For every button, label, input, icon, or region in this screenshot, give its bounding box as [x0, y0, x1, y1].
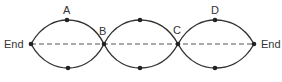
loop-1-upper-curve	[31, 20, 104, 44]
middle-upper-dot	[138, 18, 143, 23]
label-b: B	[99, 25, 106, 37]
left-end-node-dot	[29, 42, 34, 47]
antinode-a-dot	[65, 18, 70, 23]
node-c-dot	[176, 42, 181, 47]
middle-lower-dot	[138, 66, 143, 71]
label-a: A	[63, 4, 71, 16]
label-c: C	[173, 24, 181, 36]
loop-1-lower-curve	[31, 44, 104, 68]
right-end-label: End	[261, 38, 281, 50]
loop-3-lower-curve	[178, 44, 254, 68]
loop-2-upper-curve	[104, 20, 178, 44]
antinode-d-lower-dot	[213, 66, 218, 71]
standing-wave-diagram: End A B C D End	[0, 0, 282, 82]
loop-2-lower-curve	[104, 44, 178, 68]
label-d: D	[211, 4, 219, 16]
right-end-node-dot	[252, 42, 257, 47]
loop-3-upper-curve	[178, 20, 254, 44]
node-b-dot	[102, 42, 107, 47]
left-end-label: End	[4, 38, 24, 50]
antinode-d-dot	[213, 18, 218, 23]
antinode-a-lower-dot	[66, 66, 71, 71]
